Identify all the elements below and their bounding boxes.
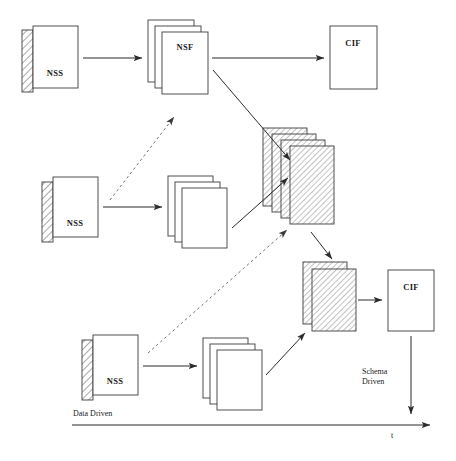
node-stack-3[interactable] xyxy=(203,338,262,410)
stack-3-sheet-front xyxy=(217,350,262,410)
node-nss-3[interactable]: NSS xyxy=(82,335,138,400)
diagram-canvas: NSS NSF CIF NSS xyxy=(0,0,456,461)
connector-nss2-to-nsf1-dashed xyxy=(110,117,174,200)
time-axis-tick-label: t xyxy=(391,431,394,440)
node-hatched-stack-2[interactable] xyxy=(303,262,356,331)
node-nsf-1-label: NSF xyxy=(177,42,194,52)
node-nss-1-label: NSS xyxy=(47,68,64,78)
node-hatched-stack-1[interactable] xyxy=(263,128,334,224)
node-cif-2[interactable]: CIF xyxy=(388,270,434,331)
node-nss-1[interactable]: NSS xyxy=(22,26,78,92)
connector-hstack1-to-hstack2 xyxy=(311,232,332,259)
data-driven-label: Data Driven xyxy=(73,409,112,418)
diagram-svg: NSS NSF CIF NSS xyxy=(0,0,456,461)
schema-driven-label-line1: Schema xyxy=(362,367,388,376)
node-nss-3-label: NSS xyxy=(107,376,124,386)
cif-2-face xyxy=(388,270,434,331)
schema-driven-label-line2: Driven xyxy=(362,377,384,386)
node-nsf-1[interactable]: NSF xyxy=(148,20,208,94)
node-cif-2-label: CIF xyxy=(403,282,419,292)
nss-3-hatch-strip xyxy=(82,340,93,400)
connector-stack3-to-hstack2 xyxy=(266,333,305,375)
connector-nsf1-to-hstack1 xyxy=(213,70,290,160)
hstack-1-sheet-4 xyxy=(290,146,334,224)
nss-1-face xyxy=(33,26,78,88)
node-cif-1-label: CIF xyxy=(345,38,361,48)
node-cif-1[interactable]: CIF xyxy=(330,26,377,89)
nss-2-face xyxy=(53,177,98,237)
stack-2-sheet-front xyxy=(182,188,227,248)
node-nss-2-label: NSS xyxy=(67,218,84,228)
nss-2-hatch-strip xyxy=(42,182,53,242)
hstack-2-sheet-2 xyxy=(312,269,356,331)
cif-1-face xyxy=(330,26,377,89)
node-nss-2[interactable]: NSS xyxy=(42,177,98,242)
nss-1-hatch-strip xyxy=(22,30,33,92)
nss-3-face xyxy=(93,335,138,395)
node-stack-2[interactable] xyxy=(168,176,227,248)
